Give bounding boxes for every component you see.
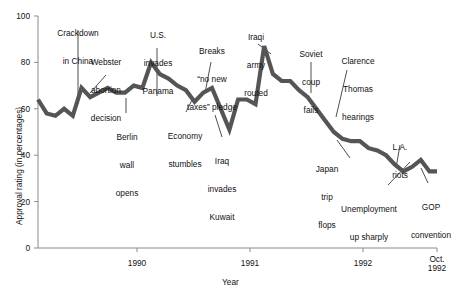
annotation-iraq-invades-kuwait: Iraq invades Kuwait bbox=[200, 138, 244, 241]
annotation-us-invades-panama: U.S. invades Panama bbox=[131, 12, 185, 115]
annotation-unemployment-up-sharply: Unemployment up sharply bbox=[330, 186, 408, 261]
y-tick-label-100: 100 bbox=[4, 11, 30, 21]
annotation-panama-line2: invades bbox=[131, 59, 185, 68]
annotation-berlin-wall: Berlin wall opens bbox=[104, 114, 150, 217]
annotation-berlin-line3: opens bbox=[104, 189, 150, 198]
annotation-thomas-line1: Clarence bbox=[331, 57, 385, 66]
annotation-la-riots-line1: L.A. bbox=[380, 143, 420, 152]
approval-rating-chart: 100 80 60 40 20 0 Approval rating (in pe… bbox=[0, 0, 457, 298]
annotation-webster-line1: Webster bbox=[76, 58, 136, 67]
annotation-soviet-coup-fails: Soviet coup fails bbox=[288, 31, 334, 134]
annotation-berlin-line2: wall bbox=[104, 161, 150, 170]
x-axis-title: Year bbox=[222, 277, 239, 287]
x-tick-label-1991: 1991 bbox=[230, 258, 270, 268]
annotation-kuwait-line2: invades bbox=[200, 185, 244, 194]
annotation-clarence-thomas-hearings: Clarence Thomas hearings bbox=[331, 38, 385, 141]
annotation-soviet-line3: fails bbox=[288, 106, 334, 115]
y-tick-label-80: 80 bbox=[4, 57, 30, 67]
annotation-unemployment-line2: up sharply bbox=[330, 233, 408, 242]
annotation-thomas-line3: hearings bbox=[331, 113, 385, 122]
annotation-panama-line1: U.S. bbox=[131, 31, 185, 40]
annotation-webster-line2: abortion bbox=[76, 86, 136, 95]
x-tick-label-oct-1992-line2: 1992 bbox=[417, 263, 457, 273]
y-axis-title: Approval rating (in percentages) bbox=[14, 107, 24, 225]
annotation-iraqi-army-line3: routed bbox=[233, 89, 279, 98]
annotation-gop-convention: GOP convention bbox=[405, 184, 457, 259]
annotation-soviet-line1: Soviet bbox=[288, 50, 334, 59]
y-tick-marks bbox=[34, 16, 38, 248]
annotation-gop-line1: GOP bbox=[405, 203, 457, 212]
y-tick-label-0: 0 bbox=[4, 243, 30, 253]
annotation-iraqi-army-routed: Iraqi army routed bbox=[233, 14, 279, 117]
annotation-iraqi-army-line1: Iraqi bbox=[233, 33, 279, 42]
annotation-kuwait-line1: Iraq bbox=[200, 157, 244, 166]
annotation-crackdown-china-line1: Crackdown bbox=[40, 29, 116, 38]
annotation-berlin-line1: Berlin bbox=[104, 133, 150, 142]
annotation-gop-line2: convention bbox=[405, 231, 457, 240]
annotation-thomas-line2: Thomas bbox=[331, 85, 385, 94]
annotation-soviet-line2: coup bbox=[288, 78, 334, 87]
annotation-panama-line3: Panama bbox=[131, 87, 185, 96]
annotation-la-riots-line2: riots bbox=[380, 171, 420, 180]
x-tick-label-1990: 1990 bbox=[117, 258, 157, 268]
annotation-unemployment-line1: Unemployment bbox=[330, 205, 408, 214]
annotation-iraqi-army-line2: army bbox=[233, 61, 279, 70]
annotation-kuwait-line3: Kuwait bbox=[200, 213, 244, 222]
annotation-japan-line1: Japan bbox=[305, 165, 349, 174]
